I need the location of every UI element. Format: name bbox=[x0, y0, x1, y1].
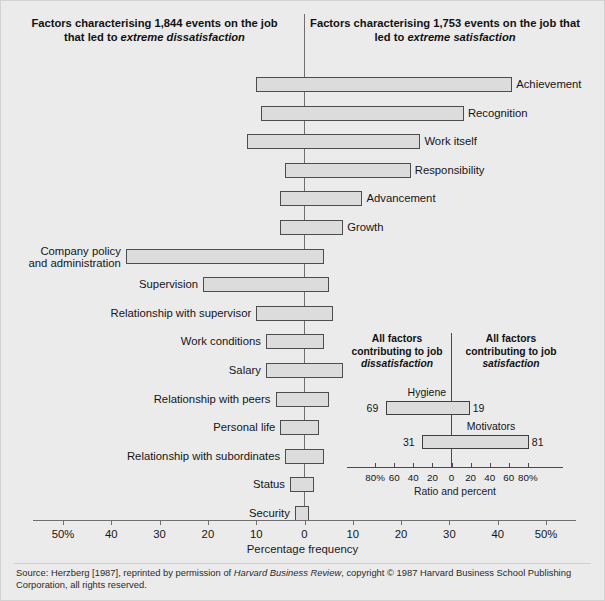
x-tick-label: 20 bbox=[188, 528, 228, 540]
x-tick-label: 40 bbox=[478, 528, 518, 540]
header-satisfaction-emphasis: extreme satisfaction bbox=[407, 31, 515, 43]
source-note-text: Source: Herzberg [1987], reprinted by pe… bbox=[16, 567, 234, 578]
inset-bar-name-motivators: Motivators bbox=[467, 420, 515, 432]
x-tick-label: 30 bbox=[140, 528, 180, 540]
bar-label-relationship-with-subordinates: Relationship with subordinates bbox=[79, 449, 280, 464]
footer-divider bbox=[14, 563, 591, 564]
chart-figure: Factors characterising 1,844 events on t… bbox=[0, 0, 605, 601]
bar-label-relationship-with-supervisor: Relationship with supervisor bbox=[50, 306, 251, 321]
inset-value-right-hygiene: 19 bbox=[473, 401, 485, 415]
x-tick-label: 50% bbox=[526, 528, 566, 540]
bar-label-growth: Growth bbox=[347, 220, 383, 235]
bar-security bbox=[295, 506, 309, 521]
bar-label-advancement: Advancement bbox=[366, 191, 435, 206]
source-note-publication: Harvard Business Review bbox=[234, 567, 341, 578]
bar-label-relationship-with-peers: Relationship with peers bbox=[70, 392, 271, 407]
inset-x-tick bbox=[452, 463, 453, 468]
inset-header-satisfaction-text: All factors contributing to job bbox=[466, 333, 557, 357]
x-axis-title: Percentage frequency bbox=[0, 543, 605, 555]
bar-personal-life bbox=[280, 420, 319, 435]
x-tick bbox=[111, 520, 112, 525]
bar-label-achievement: Achievement bbox=[516, 77, 581, 92]
bar-recognition bbox=[261, 106, 464, 121]
bar-salary bbox=[266, 363, 343, 378]
bar-label-work-conditions: Work conditions bbox=[60, 334, 261, 349]
x-tick bbox=[546, 520, 547, 525]
inset-value-right-motivators: 81 bbox=[532, 435, 544, 449]
x-tick-label: 0 bbox=[285, 528, 325, 540]
bar-growth bbox=[280, 220, 343, 235]
inset-x-tick bbox=[509, 463, 510, 468]
x-tick bbox=[63, 520, 64, 525]
header-dissatisfaction: Factors characterising 1,844 events on t… bbox=[22, 16, 287, 44]
inset-x-tick bbox=[471, 463, 472, 468]
bar-work-conditions bbox=[266, 334, 324, 349]
x-tick-label: 30 bbox=[429, 528, 469, 540]
bar-relationship-with-peers bbox=[276, 392, 329, 407]
bar-label-supervision: Supervision bbox=[0, 277, 198, 292]
bar-label-work-itself: Work itself bbox=[424, 134, 477, 149]
bar-supervision bbox=[203, 277, 329, 292]
bar-responsibility bbox=[285, 163, 411, 178]
inset-header-satisfaction: All factors contributing to job satisfac… bbox=[459, 333, 563, 371]
inset-bar-hygiene bbox=[386, 401, 470, 415]
x-tick bbox=[401, 520, 402, 525]
inset-x-axis-title: Ratio and percent bbox=[347, 486, 563, 497]
inset-bar-name-hygiene: Hygiene bbox=[408, 386, 447, 398]
bar-relationship-with-subordinates bbox=[285, 449, 324, 464]
bar-advancement bbox=[280, 191, 362, 206]
bar-label-status: Status bbox=[84, 477, 285, 492]
x-tick-label: 10 bbox=[236, 528, 276, 540]
inset-header-dissatisfaction-emphasis: dissatisfaction bbox=[361, 358, 433, 369]
bar-work-itself bbox=[247, 134, 421, 149]
bar-status bbox=[290, 477, 314, 492]
inset-x-tick bbox=[528, 463, 529, 468]
bar-label-salary: Salary bbox=[60, 363, 261, 378]
x-tick-label: 40 bbox=[91, 528, 131, 540]
bar-label-company-policy-and-administration: Company policyand administration bbox=[0, 245, 121, 269]
bar-company-policy-and-administration bbox=[126, 249, 324, 264]
x-tick bbox=[498, 520, 499, 525]
x-tick-label: 50% bbox=[43, 528, 83, 540]
bar-label-responsibility: Responsibility bbox=[415, 163, 485, 178]
bar-label-recognition: Recognition bbox=[468, 106, 528, 121]
inset-value-left-hygiene: 69 bbox=[367, 401, 379, 415]
bar-relationship-with-supervisor bbox=[256, 306, 333, 321]
inset-x-tick bbox=[413, 463, 414, 468]
x-tick-label: 20 bbox=[381, 528, 421, 540]
x-tick bbox=[449, 520, 450, 525]
source-note: Source: Herzberg [1987], reprinted by pe… bbox=[16, 567, 591, 590]
x-tick bbox=[353, 520, 354, 525]
inset-x-tick-label: 80% bbox=[514, 472, 542, 483]
inset-value-left-motivators: 31 bbox=[403, 435, 415, 449]
inset-x-tick bbox=[394, 463, 395, 468]
inset-x-tick bbox=[490, 463, 491, 468]
header-satisfaction: Factors characterising 1,753 events on t… bbox=[310, 16, 580, 44]
x-tick bbox=[305, 520, 306, 525]
inset-x-tick bbox=[375, 463, 376, 468]
x-tick bbox=[256, 520, 257, 525]
x-tick bbox=[208, 520, 209, 525]
inset-header-dissatisfaction-text: All factors contributing to job bbox=[352, 333, 443, 357]
bar-label-security: Security bbox=[89, 506, 290, 521]
inset-header-dissatisfaction: All factors contributing to job dissatis… bbox=[347, 333, 447, 371]
inset-x-tick bbox=[432, 463, 433, 468]
bar-label-personal-life: Personal life bbox=[74, 420, 275, 435]
bar-achievement bbox=[256, 77, 512, 92]
inset-chart: All factors contributing to job dissatis… bbox=[347, 333, 580, 493]
inset-bar-motivators bbox=[422, 435, 529, 449]
inset-x-axis-line bbox=[347, 467, 563, 468]
inset-header-satisfaction-emphasis: satisfaction bbox=[482, 358, 539, 369]
x-tick bbox=[160, 520, 161, 525]
header-dissatisfaction-emphasis: extreme dissatisfaction bbox=[121, 31, 245, 43]
x-tick-label: 10 bbox=[333, 528, 373, 540]
